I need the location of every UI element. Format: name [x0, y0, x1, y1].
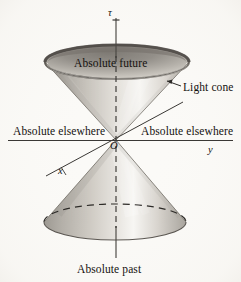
- label-absolute-elsewhere-right: Absolute elsewhere: [141, 126, 233, 138]
- axis-label-x: x: [58, 166, 63, 177]
- label-absolute-past: Absolute past: [77, 264, 141, 276]
- label-absolute-future: Absolute future: [74, 58, 147, 70]
- label-light-cone: Light cone: [183, 82, 234, 94]
- axis-label-y: y: [208, 145, 213, 156]
- label-absolute-elsewhere-left: Absolute elsewhere: [13, 126, 105, 138]
- light-cone-drawing: [0, 0, 241, 282]
- axis-label-tau: τ: [108, 8, 112, 19]
- light-cone-figure: τ Absolute future Light cone Absolute el…: [0, 0, 241, 282]
- label-origin: O: [110, 141, 118, 152]
